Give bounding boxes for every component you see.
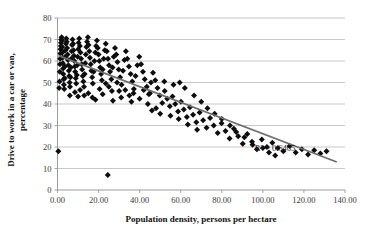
data-point <box>193 119 199 125</box>
data-point <box>190 112 196 118</box>
data-point <box>100 91 106 97</box>
data-point <box>191 92 197 98</box>
data-point <box>161 78 167 84</box>
x-tick-label-0: 0.00 <box>50 195 65 205</box>
y-tick-label-20: 20 <box>43 142 52 152</box>
data-point <box>324 148 330 154</box>
data-point <box>184 114 190 120</box>
data-point <box>167 113 173 119</box>
data-point <box>222 128 228 134</box>
data-point <box>109 88 115 94</box>
data-point <box>142 76 148 82</box>
data-point <box>61 86 67 92</box>
data-point <box>126 63 132 69</box>
data-point <box>114 59 120 65</box>
data-point <box>67 92 73 98</box>
data-point <box>207 115 213 121</box>
data-point <box>176 116 182 122</box>
x-tick-labels: 0.0020.0040.0060.0080.00100.00120.00140.… <box>50 195 357 205</box>
y-tick-label-0: 0 <box>47 185 51 195</box>
gridlines-group <box>58 18 346 169</box>
data-point <box>155 85 161 91</box>
x-tick-label-60: 60.00 <box>171 195 190 205</box>
x-tick-label-140: 140.00 <box>333 195 356 205</box>
data-point <box>227 135 233 141</box>
y-tick-label-60: 60 <box>43 56 52 66</box>
data-point <box>80 78 86 84</box>
data-point <box>120 68 126 74</box>
data-point <box>162 88 168 94</box>
data-point <box>110 98 116 104</box>
y-tick-label-80: 80 <box>43 13 52 23</box>
x-tick-label-100: 100.00 <box>251 195 274 205</box>
x-tick-label-40: 40.00 <box>130 195 149 205</box>
y-tick-label-40: 40 <box>43 99 52 109</box>
data-point <box>215 130 221 136</box>
data-point <box>94 38 100 44</box>
data-point <box>76 35 82 41</box>
data-point <box>157 111 163 117</box>
data-point <box>194 127 200 133</box>
y-axis-title-line2: percentage <box>17 89 27 131</box>
y-tick-label-70: 70 <box>43 35 52 45</box>
y-axis-title: Drive to work in a car or van, percentag… <box>6 53 27 167</box>
data-point <box>89 74 95 80</box>
data-point <box>182 85 188 91</box>
y-tick-labels: 01020304050607080 <box>43 13 52 195</box>
data-point <box>56 85 62 91</box>
data-point <box>259 136 265 142</box>
y-tick-label-50: 50 <box>43 78 52 88</box>
data-point <box>118 95 124 101</box>
data-point <box>177 80 183 86</box>
data-point <box>137 96 143 102</box>
data-point <box>204 105 210 111</box>
data-point <box>67 84 73 90</box>
data-point <box>136 54 142 60</box>
data-point <box>72 89 78 95</box>
x-axis-title: Population density, persons per hectare <box>126 214 277 224</box>
data-point <box>181 106 187 112</box>
data-point <box>90 81 96 87</box>
data-point <box>73 81 79 87</box>
y-tick-label-30: 30 <box>43 121 52 131</box>
chart-canvas: 01020304050607080 0.0020.0040.0060.0080.… <box>0 0 378 236</box>
data-point <box>55 148 61 154</box>
data-point <box>175 109 181 115</box>
data-point <box>272 153 278 159</box>
scatter-chart: 01020304050607080 0.0020.0040.0060.0080.… <box>0 0 378 236</box>
r-squared-annotation: R² = 0.6465 <box>255 143 296 153</box>
data-point <box>240 141 246 147</box>
data-point <box>105 172 111 178</box>
data-point <box>211 123 217 129</box>
data-point <box>87 55 93 61</box>
data-point <box>103 41 109 47</box>
data-point <box>123 48 129 54</box>
y-axis-title-line1: Drive to work in a car or van, <box>6 53 16 167</box>
y-tick-label-10: 10 <box>43 164 52 174</box>
data-point <box>159 100 165 106</box>
x-tick-label-20: 20.00 <box>89 195 108 205</box>
x-tick-label-120: 120.00 <box>292 195 315 205</box>
data-point <box>140 69 146 75</box>
data-point <box>185 121 191 127</box>
data-point <box>116 88 122 94</box>
data-point <box>97 86 103 92</box>
data-point <box>150 70 156 76</box>
data-point <box>200 117 206 123</box>
data-point <box>116 67 122 73</box>
data-point <box>112 45 118 51</box>
data-point <box>145 101 151 107</box>
data-point <box>75 93 81 99</box>
x-tick-label-80: 80.00 <box>212 195 231 205</box>
data-point <box>122 87 128 93</box>
